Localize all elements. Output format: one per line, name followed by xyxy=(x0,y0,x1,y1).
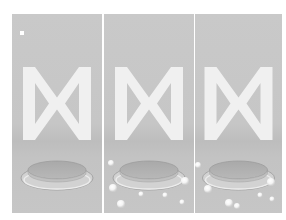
bowtie-shape xyxy=(23,67,91,140)
sphere xyxy=(139,192,144,197)
sphere xyxy=(225,199,233,207)
panel-1 xyxy=(12,14,102,213)
marker-square xyxy=(20,31,24,35)
sphere xyxy=(270,197,275,202)
sphere xyxy=(180,200,185,205)
sphere xyxy=(163,193,168,198)
sphere xyxy=(108,160,114,166)
sphere xyxy=(181,177,189,185)
panel-2 xyxy=(104,14,194,213)
sphere xyxy=(258,193,263,198)
platform-disc xyxy=(203,161,275,190)
platform-disc xyxy=(21,161,93,190)
sphere xyxy=(234,203,240,209)
panel-3 xyxy=(195,14,282,213)
bowtie-shape xyxy=(115,67,183,140)
sphere xyxy=(117,200,125,208)
sphere xyxy=(267,178,275,186)
platform-disc xyxy=(113,161,185,190)
bowtie-shape xyxy=(205,67,273,140)
sphere xyxy=(204,185,212,193)
sphere xyxy=(109,184,117,192)
sphere xyxy=(195,162,201,168)
